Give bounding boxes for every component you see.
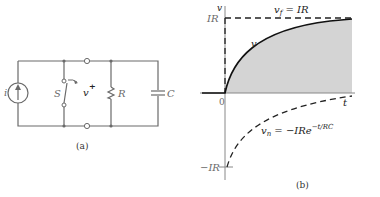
tick-bottom: −IR — [200, 162, 220, 173]
resistor-icon — [108, 61, 114, 126]
capacitor-label: C — [167, 88, 175, 99]
junction-dot — [62, 124, 65, 127]
curve-label: v — [251, 38, 257, 49]
source-label: i — [4, 87, 7, 98]
tick-zero: 0 — [219, 97, 225, 107]
natural-response-label: vn = −IRe−t/RC — [261, 123, 334, 138]
caption-a: (a) — [76, 141, 88, 151]
junction-dot — [62, 59, 65, 62]
capacitor-icon — [150, 90, 166, 96]
junction-dot — [109, 59, 112, 62]
junction-dot — [109, 124, 112, 127]
figure-canvas: i S v + R — [0, 0, 380, 197]
x-axis-label: t — [343, 97, 348, 108]
tick-top: IR — [206, 13, 219, 24]
switch-label: S — [54, 88, 61, 99]
caption-b: (b) — [296, 180, 309, 190]
voltage-polarity: + — [89, 81, 96, 91]
circuit-diagram: i S v + R — [4, 58, 175, 151]
response-graph: v IR 0 −IR t v vf = IR vn = −IRe−t/RC (b… — [200, 3, 355, 190]
terminal-bottom — [84, 123, 89, 128]
current-source-icon — [8, 83, 28, 103]
switch-icon — [62, 61, 78, 126]
resistor-label: R — [117, 88, 126, 99]
final-value-label: vf = IR — [274, 4, 309, 17]
terminal-top — [84, 58, 89, 63]
y-axis-label: v — [217, 3, 222, 13]
